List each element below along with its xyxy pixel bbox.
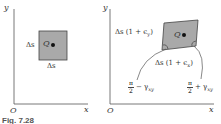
angle-left-label: − γxy bbox=[136, 84, 154, 92]
strain-diagram: y x O Q Δs Δs y x O Q Δs (1 + ϵy) Δs (1 … bbox=[0, 0, 221, 124]
left-origin-label: O bbox=[10, 107, 17, 115]
angle-right-fraction: π2 bbox=[187, 80, 193, 94]
right-x-axis-label: x bbox=[209, 106, 214, 114]
leader-right bbox=[194, 46, 202, 79]
right-y-axis-label: y bbox=[103, 4, 108, 12]
left-y-axis-label: y bbox=[4, 4, 9, 12]
right-side-bottom-label: Δs (1 + ϵx) bbox=[155, 60, 193, 68]
right-origin-label: O bbox=[107, 107, 114, 115]
angle-right-label: + γxy bbox=[195, 84, 213, 92]
left-bottom-label: Δs bbox=[47, 63, 56, 70]
right-q-label: Q bbox=[174, 31, 181, 39]
left-q-label: Q bbox=[43, 40, 50, 48]
angle-left-fraction: π2 bbox=[128, 80, 134, 94]
right-side-left-label: Δs (1 + ϵy) bbox=[115, 29, 153, 37]
right-point-q bbox=[182, 33, 186, 37]
left-side-label: Δs bbox=[26, 42, 35, 49]
left-point-q bbox=[51, 43, 55, 47]
figure-caption: Fig. 7.28 bbox=[2, 116, 34, 124]
left-x-axis-label: x bbox=[84, 106, 89, 114]
